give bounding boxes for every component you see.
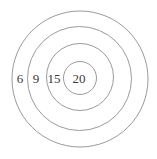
ring-label-second: 9 (33, 71, 40, 86)
ring-label-outer: 6 (17, 71, 24, 86)
ring-label-bullseye: 20 (73, 71, 86, 86)
ring-label-third: 15 (48, 71, 61, 86)
target-diagram: 6 9 15 20 (0, 0, 157, 159)
